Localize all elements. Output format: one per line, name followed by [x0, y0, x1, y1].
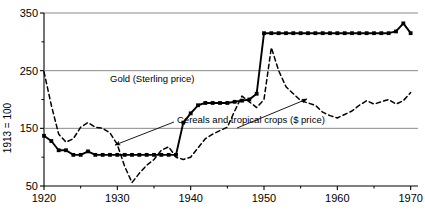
series-marker — [203, 101, 207, 105]
series-marker — [86, 150, 90, 154]
series-marker — [64, 148, 68, 152]
series-marker — [159, 153, 163, 157]
series-marker — [152, 153, 156, 157]
series-marker — [284, 31, 288, 35]
series-marker — [409, 31, 413, 35]
series-marker — [277, 31, 281, 35]
series-marker — [42, 134, 46, 138]
series-marker — [108, 153, 112, 157]
chart-container: 501502503501920193019401950196019701913 … — [0, 0, 425, 211]
series-marker — [71, 153, 75, 157]
gold-label: Gold (Sterling price) — [110, 73, 194, 84]
series-marker — [167, 153, 171, 157]
price-index-line-chart: 501502503501920193019401950196019701913 … — [0, 0, 425, 211]
series-marker — [196, 103, 200, 107]
series-line-0 — [44, 23, 411, 154]
series-marker — [145, 153, 149, 157]
series-marker — [218, 101, 222, 105]
series-marker — [313, 31, 317, 35]
series-marker — [123, 153, 127, 157]
series-marker — [93, 153, 97, 157]
series-marker — [394, 30, 398, 34]
series-marker — [387, 31, 391, 35]
series-marker — [291, 31, 295, 35]
series-marker — [335, 31, 339, 35]
series-marker — [343, 31, 347, 35]
y-axis-title: 1913 = 100 — [2, 102, 13, 153]
series-marker — [321, 31, 325, 35]
series-marker — [233, 100, 237, 104]
series-marker — [372, 31, 376, 35]
cereals-label: Cereals and tropical crops ($ price) — [177, 114, 325, 125]
series-marker — [365, 31, 369, 35]
y-tick-label-50: 50 — [26, 180, 38, 192]
series-marker — [137, 153, 141, 157]
series-marker — [299, 31, 303, 35]
x-tick-label-1950: 1950 — [252, 192, 276, 204]
x-tick-label-1930: 1930 — [105, 192, 129, 204]
x-tick-label-1960: 1960 — [325, 192, 349, 204]
x-tick-label-1970: 1970 — [398, 192, 422, 204]
series-marker — [401, 21, 405, 25]
series-marker — [225, 101, 229, 105]
series-marker — [350, 31, 354, 35]
series-marker — [211, 101, 215, 105]
series-marker — [269, 31, 273, 35]
series-marker — [255, 92, 259, 96]
series-marker — [357, 31, 361, 35]
series-marker — [328, 31, 332, 35]
series-marker — [79, 153, 83, 157]
y-tick-label-250: 250 — [20, 65, 38, 77]
y-tick-label-150: 150 — [20, 122, 38, 134]
x-tick-label-1920: 1920 — [32, 192, 56, 204]
series-marker — [130, 153, 134, 157]
series-marker — [379, 31, 383, 35]
series-marker — [57, 148, 61, 152]
y-tick-label-350: 350 — [20, 7, 38, 19]
series-marker — [101, 153, 105, 157]
x-tick-label-1940: 1940 — [178, 192, 202, 204]
series-marker — [306, 31, 310, 35]
series-marker — [262, 31, 266, 35]
arrow-left — [115, 122, 174, 145]
series-marker — [115, 153, 119, 157]
series-marker — [49, 139, 53, 143]
